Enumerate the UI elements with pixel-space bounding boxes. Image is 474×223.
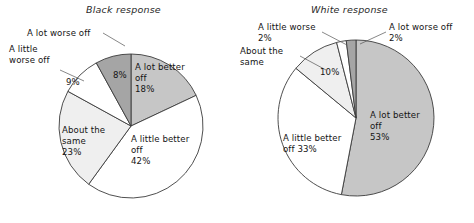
slice-label-a-little-worse: A little worse 2% — [258, 22, 316, 44]
slice-label-a-little-worse-off: A little worse off — [9, 44, 50, 66]
slice-label-a-lot-worse-off: A lot worse off — [27, 28, 90, 39]
slice-percent-a-little-worse-off: 9% — [66, 77, 80, 88]
slice-label-about-the-same: About the same — [240, 46, 283, 68]
leader-line — [103, 33, 125, 46]
slice-percent-about-the-same: 10% — [320, 67, 339, 78]
slice-label-about-the-same: About the same 23% — [62, 125, 105, 158]
slice-percent-a-lot-worse-off: 8% — [113, 70, 127, 81]
slice-label-a-lot-better-off: A lot better off 53% — [370, 110, 420, 143]
slice-label-a-lot-better-off: A lot better off 18% — [135, 62, 185, 95]
pie-chart-figure: Black responseA lot better off 18%A litt… — [0, 0, 474, 223]
slice-label-a-little-better-off: A little better off 42% — [131, 134, 189, 167]
chart-title-white-response: White response — [311, 4, 388, 15]
slice-label-a-lot-worse-off: A lot worse off 2% — [389, 22, 452, 44]
chart-title-black-response: Black response — [86, 4, 161, 15]
slice-label-a-little-better-off: A little better off 33% — [283, 133, 341, 155]
